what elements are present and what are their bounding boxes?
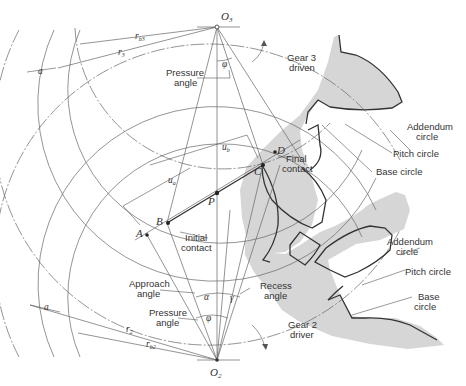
rb3-line	[80, 27, 217, 44]
label-o2: O2	[210, 366, 222, 380]
label-initial-contact-2: contact	[181, 242, 212, 253]
label-pitch-top: Pitch circle	[393, 148, 439, 159]
ua-dim	[123, 168, 190, 206]
label-final-contact-2: contact	[282, 163, 313, 174]
label-o3: O3	[221, 10, 233, 24]
point-c	[261, 163, 265, 167]
label-a-top: a	[38, 66, 43, 76]
label-base-bottom-2: circle	[414, 301, 436, 312]
label-ub: ub	[222, 142, 230, 153]
addendum-top-leader	[390, 130, 410, 150]
label-a: A	[135, 227, 143, 239]
label-addendum-bottom-2: circle	[396, 246, 418, 257]
label-gear2-2: driver	[290, 329, 314, 340]
label-c: C	[254, 165, 262, 177]
gear-mesh-diagram: O3 O2 P A B C D rb3 r3 a a r2 rb2 ua ub …	[0, 0, 466, 386]
dimension-labels: rb3 r3 a a r2 rb2 ua ub	[38, 31, 230, 350]
label-phi-top: φ	[222, 59, 227, 69]
o3-to-b	[167, 27, 217, 223]
label-b: B	[156, 215, 163, 227]
label-recess-angle-2: angle	[264, 290, 287, 301]
label-a-bottom: a	[44, 302, 49, 312]
point-b	[166, 221, 170, 225]
approach-leader	[160, 290, 195, 293]
label-pitch-bottom: Pitch circle	[405, 266, 451, 277]
label-phi-bottom: φ	[206, 313, 211, 323]
label-r3: r3	[118, 47, 125, 58]
point-o2	[215, 358, 219, 362]
label-addendum-top-2: circle	[416, 131, 438, 142]
r2-line	[30, 305, 217, 360]
recess-leader	[240, 288, 250, 294]
base-bottom-leader	[352, 297, 412, 315]
label-r2: r2	[126, 324, 133, 335]
ub-dim	[150, 135, 247, 165]
gear3-base-circle	[68, 30, 362, 243]
o2-pressure	[217, 210, 230, 360]
label-gear3-2: driven	[289, 62, 315, 73]
point-p	[215, 191, 219, 195]
label-rb3: rb3	[135, 31, 145, 42]
point-o3	[215, 25, 219, 29]
label-pressure-angle-bottom-2: angle	[156, 317, 179, 328]
point-a	[145, 233, 149, 237]
pitch-top-leader	[345, 124, 392, 153]
label-p: P	[207, 195, 215, 207]
pressure-bottom-leader	[178, 318, 198, 320]
label-d: D	[276, 144, 285, 156]
label-approach-angle-2: angle	[137, 288, 160, 299]
label-base-top: Base circle	[376, 166, 422, 177]
label-pressure-angle-top-2: angle	[174, 77, 197, 88]
pitch-bottom-leader	[362, 270, 405, 285]
label-gamma: γ	[230, 293, 234, 303]
